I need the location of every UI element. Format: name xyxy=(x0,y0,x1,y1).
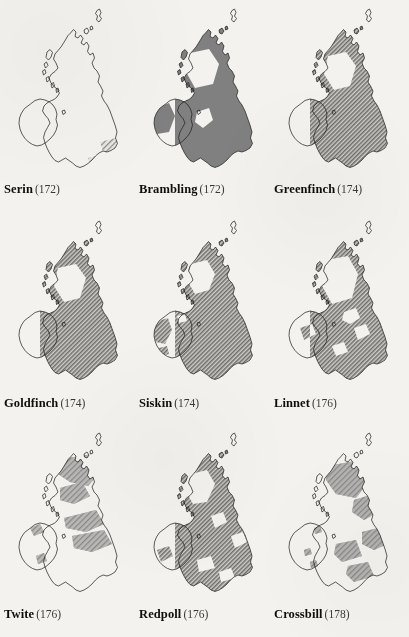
map-cell-crossbill: Crossbill(178) xyxy=(270,424,404,637)
map-caption: Crossbill(178) xyxy=(274,605,350,621)
scanned-page: Serin(172) Brambling(172) xyxy=(0,0,409,637)
species-name: Twite xyxy=(4,607,34,621)
page-reference: (176) xyxy=(312,397,337,409)
map-caption: Linnet(176) xyxy=(274,394,337,410)
page-reference: (174) xyxy=(174,397,199,409)
map-caption: Brambling(172) xyxy=(139,180,224,196)
species-name: Linnet xyxy=(274,396,310,410)
page-reference: (174) xyxy=(60,397,85,409)
map-redpoll xyxy=(135,424,269,610)
map-cell-linnet: Linnet(176) xyxy=(270,212,404,424)
map-caption: Goldfinch(174) xyxy=(4,394,85,410)
map-cell-goldfinch: Goldfinch(174) xyxy=(0,212,134,424)
map-serin xyxy=(0,0,134,186)
species-name: Greenfinch xyxy=(274,182,335,196)
map-cell-redpoll: Redpoll(176) xyxy=(135,424,269,637)
species-name: Crossbill xyxy=(274,607,323,621)
map-cell-siskin: Siskin(174) xyxy=(135,212,269,424)
map-grid: Serin(172) Brambling(172) xyxy=(0,0,409,637)
map-cell-brambling: Brambling(172) xyxy=(135,0,269,212)
page-reference: (176) xyxy=(183,608,208,620)
map-caption: Serin(172) xyxy=(4,180,60,196)
map-caption: Twite(176) xyxy=(4,605,61,621)
page-reference: (176) xyxy=(36,608,61,620)
species-name: Redpoll xyxy=(139,607,181,621)
species-name: Goldfinch xyxy=(4,396,58,410)
map-brambling xyxy=(135,0,269,186)
map-cell-serin: Serin(172) xyxy=(0,0,134,212)
map-linnet xyxy=(270,212,404,398)
map-cell-twite: Twite(176) xyxy=(0,424,134,637)
map-caption: Greenfinch(174) xyxy=(274,180,362,196)
map-caption: Siskin(174) xyxy=(139,394,199,410)
page-reference: (178) xyxy=(325,608,350,620)
map-goldfinch xyxy=(0,212,134,398)
species-name: Serin xyxy=(4,182,33,196)
species-name: Siskin xyxy=(139,396,172,410)
map-twite xyxy=(0,424,134,610)
map-siskin xyxy=(135,212,269,398)
map-caption: Redpoll(176) xyxy=(139,605,208,621)
species-name: Brambling xyxy=(139,182,198,196)
page-reference: (174) xyxy=(337,183,362,195)
map-cell-greenfinch: Greenfinch(174) xyxy=(270,0,404,212)
page-reference: (172) xyxy=(35,183,60,195)
map-crossbill xyxy=(270,424,404,610)
page-reference: (172) xyxy=(200,183,225,195)
map-greenfinch xyxy=(270,0,404,186)
